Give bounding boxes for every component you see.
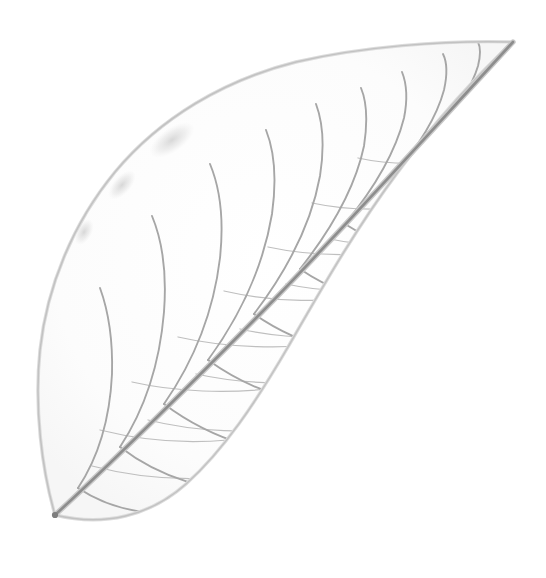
leaf-specimen-image: A pressed, skeletonized leaf showing its… [0, 0, 546, 578]
petiole-base [52, 512, 58, 518]
image-canvas: Skeletonized leaf specimen on plain whit… [0, 0, 546, 578]
